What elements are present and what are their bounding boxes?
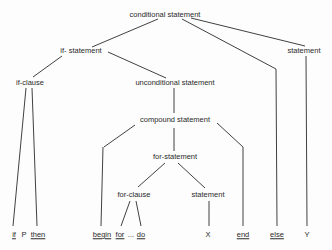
tree-edges bbox=[0, 0, 332, 250]
leaf-end: end bbox=[237, 231, 250, 239]
edge-if-statement-to-if-clause bbox=[33, 56, 62, 77]
edge-begin-vertical bbox=[101, 147, 103, 226]
edge-compound-to-begin bbox=[104, 125, 135, 147]
node-statement-inner: statement bbox=[192, 191, 225, 199]
node-unconditional-statement: unconditional statement bbox=[135, 79, 214, 87]
node-conditional-statement: conditional statement bbox=[130, 11, 201, 19]
leaf-y: Y bbox=[304, 231, 309, 239]
parse-tree-diagram: conditional statement if- statement stat… bbox=[0, 0, 332, 250]
edge-for-statement-to-statement bbox=[178, 163, 205, 188]
node-for-statement: for-statement bbox=[153, 153, 197, 161]
leaf-else: else bbox=[270, 231, 284, 239]
leaf-ellipsis: ... bbox=[128, 231, 134, 239]
node-compound-statement: compound statement bbox=[140, 116, 210, 124]
edge-else-vertical bbox=[276, 69, 277, 226]
edge-statement-right-to-y bbox=[306, 56, 307, 226]
leaf-do: do bbox=[137, 231, 145, 239]
edge-for-clause-to-for bbox=[121, 201, 130, 226]
edge-conditional-to-statement-right bbox=[191, 18, 305, 46]
edge-conditional-to-if-statement bbox=[92, 19, 158, 47]
node-for-clause: for-clause bbox=[118, 191, 151, 199]
leaf-for: for bbox=[116, 231, 125, 239]
edge-compound-to-end bbox=[217, 123, 243, 147]
node-statement-right: statement bbox=[288, 47, 321, 55]
edge-if-statement-to-unconditional bbox=[108, 52, 166, 78]
edge-for-clause-to-do bbox=[136, 201, 141, 226]
leaf-p: P bbox=[21, 231, 26, 239]
leaf-then: then bbox=[31, 231, 46, 239]
leaf-if: if bbox=[12, 231, 16, 239]
node-if-clause: if-clause bbox=[16, 79, 44, 87]
edge-for-statement-to-for-clause bbox=[138, 163, 165, 187]
node-if-statement: if- statement bbox=[60, 47, 101, 55]
leaf-x: X bbox=[205, 231, 210, 239]
edge-if-clause-to-if bbox=[13, 88, 26, 226]
edge-conditional-to-else bbox=[182, 19, 276, 69]
edge-if-clause-to-then bbox=[32, 88, 37, 226]
leaf-begin: begin bbox=[93, 231, 111, 239]
